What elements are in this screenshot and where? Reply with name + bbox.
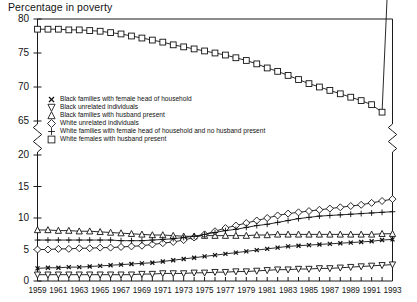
legend-marker-triangle-up-icon	[46, 111, 57, 119]
legend-marker-x-icon	[46, 95, 57, 103]
legend-label: Black families with female head of house…	[60, 95, 192, 103]
legend-item: Black families with female head of house…	[46, 95, 265, 103]
legend-marker-square-icon	[46, 135, 57, 143]
legend-label: White females with husband present	[60, 135, 166, 143]
y-tick-70: 70	[7, 82, 29, 92]
poverty-line-chart: Percentage in poverty 8075706520151050 1…	[0, 0, 417, 302]
legend-label: White unrelated individuals	[60, 119, 139, 127]
legend-label: Black unrelated individuals	[60, 103, 138, 111]
x-tick-1993: 1993	[378, 286, 408, 295]
legend-item: White females with husband present	[46, 135, 265, 143]
legend-item: White families with female head of house…	[46, 127, 265, 135]
y-tick-15: 15	[7, 182, 29, 192]
y-tick-0: 0	[7, 276, 29, 286]
legend-label: Black families with husband present	[60, 111, 165, 119]
y-tick-10: 10	[7, 213, 29, 223]
y-tick-75: 75	[7, 48, 29, 58]
y-tick-20: 20	[7, 150, 29, 160]
legend-label: White families with female head of house…	[60, 127, 265, 135]
legend-marker-triangle-down-icon	[46, 103, 57, 111]
y-tick-5: 5	[7, 245, 29, 255]
legend-marker-diamond-icon	[46, 119, 57, 127]
legend-item: Black families with husband present	[46, 111, 265, 119]
legend-marker-plus-icon	[46, 127, 57, 135]
plot-canvas	[0, 0, 417, 302]
y-tick-80: 80	[7, 14, 29, 24]
legend-item: White unrelated individuals	[46, 119, 265, 127]
y-tick-65: 65	[7, 116, 29, 126]
series-1	[34, 262, 395, 278]
legend-item: Black unrelated individuals	[46, 103, 265, 111]
chart-legend: Black families with female head of house…	[46, 95, 265, 144]
